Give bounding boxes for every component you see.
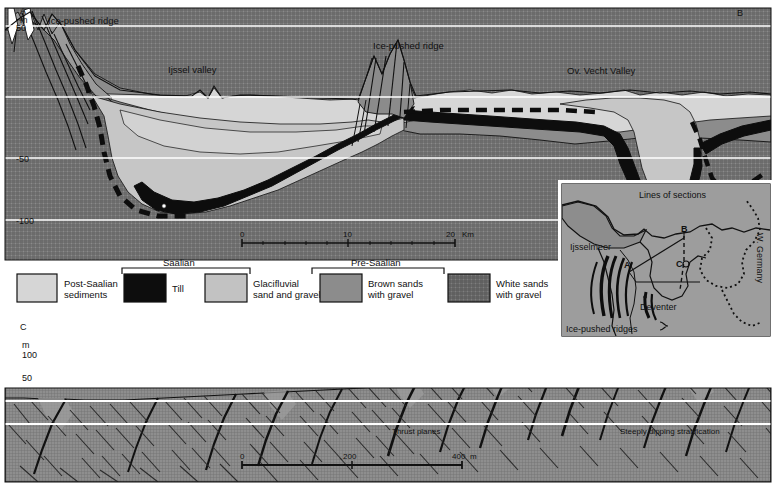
- section-c-tick-50: 50: [22, 373, 32, 383]
- legend-swatch-post-saalian: [17, 274, 57, 302]
- legend-label-glacifluvial-2: sand and gravel: [253, 289, 321, 300]
- figure-canvas: A m 50 -50 -100 B Ice-pushed ridge Ijsse…: [0, 0, 776, 494]
- borehole-marker: [162, 204, 166, 208]
- axis-tick-minus100: -100: [16, 216, 34, 226]
- axis-tick-minus50: -50: [16, 154, 29, 164]
- legend-label-brown-sands-2: with gravel: [367, 289, 413, 300]
- section-c-unit-label: m: [22, 340, 30, 350]
- legend-group-saalian: Saalian: [163, 257, 195, 268]
- legend-label-till: Till: [172, 283, 184, 294]
- inset-map-label-b: B: [681, 224, 688, 234]
- annotation-thrust-planes: Thrust planes: [392, 427, 440, 436]
- legend-label-white-sands-2: with gravel: [495, 289, 541, 300]
- annotation-ijssel-valley: Ijssel valley: [168, 64, 217, 75]
- legend-group-pre-saalian: Pre-Saalian: [351, 257, 401, 268]
- scale-c-tick-200: 200: [343, 452, 357, 461]
- thrust-fault-dashed-right: [404, 110, 596, 112]
- inset-map-label-a: A: [624, 260, 631, 270]
- section-c-tick-100: 100: [22, 350, 37, 360]
- inset-map-label-deventer: Deventer: [640, 302, 677, 312]
- inset-map-label-ijsselmeer: Ijsselmeer: [570, 242, 611, 252]
- legend-swatch-till: [124, 274, 166, 302]
- legend-swatch-glacifluvial: [205, 274, 247, 302]
- legend-label-glacifluvial-1: Glacifluvial: [253, 278, 299, 289]
- legend-label-post-saalian-2: sediments: [64, 289, 108, 300]
- scale-ab-tick-0: 0: [240, 230, 245, 239]
- scale-c-tick-0: 0: [240, 452, 245, 461]
- geological-figure: A m 50 -50 -100 B Ice-pushed ridge Ijsse…: [0, 0, 776, 494]
- legend-swatch-white-sands: [448, 274, 490, 302]
- annotation-ice-pushed-ridge-left: Ice-pushed ridge: [48, 15, 119, 26]
- scale-ab-tick-20: 20: [446, 230, 455, 239]
- annotation-ov-vecht-valley: Ov. Vecht Valley: [567, 65, 636, 76]
- legend-label-white-sands-1: White sands: [496, 278, 549, 289]
- scale-ab-tick-10: 10: [343, 230, 352, 239]
- section-c-left-label: C: [20, 322, 27, 332]
- inset-map-label-w-germany: W. Germany: [755, 233, 765, 284]
- scale-c-unit: m: [470, 452, 477, 461]
- legend-label-brown-sands-1: Brown sands: [368, 278, 423, 289]
- section-ab-right-label: B: [737, 8, 743, 18]
- inset-map-label-ice-pushed-ridges: Ice-pushed ridges: [566, 324, 638, 334]
- annotation-steeply-dipping-stratification: Steeply dipping stratification: [620, 427, 720, 436]
- axis-tick-50: 50: [16, 23, 26, 33]
- legend-label-post-saalian-1: Post-Saalian: [64, 278, 118, 289]
- inset-map: Lines of sections Ijsselmeer W. Germany …: [558, 180, 774, 340]
- annotation-ice-pushed-ridge-middle: Ice-pushed ridge: [373, 40, 444, 51]
- legend-swatch-brown-sands: [320, 274, 362, 302]
- scale-c-tick-400: 400: [452, 452, 466, 461]
- inset-map-title: Lines of sections: [639, 190, 707, 200]
- map-dot-deventer: [643, 295, 647, 299]
- scale-ab-unit: Km: [462, 230, 474, 239]
- inset-map-label-c: C: [676, 259, 683, 269]
